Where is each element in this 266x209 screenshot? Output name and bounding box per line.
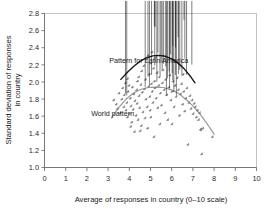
- y-tick-label: 1.8: [29, 95, 39, 104]
- world-curve-label: World pattern: [91, 109, 134, 118]
- y-tick-label: 1.2: [29, 146, 39, 155]
- y-tick-label: 2.0: [29, 78, 39, 87]
- y-axis-title-line1: Standard deviation of responses: [4, 35, 13, 144]
- x-tick-label: 4: [127, 174, 131, 183]
- x-tick-label: 10: [252, 174, 260, 183]
- x-tick-label: 9: [233, 174, 237, 183]
- x-axis-title: Average of responses in country (0–10 sc…: [75, 195, 228, 204]
- latin-america-curve-label: Pattern for Latin America: [109, 56, 188, 65]
- x-tick-label: 3: [106, 174, 110, 183]
- y-tick-label: 2.8: [29, 9, 39, 18]
- y-tick-label: 1.4: [29, 129, 39, 138]
- x-tick-label: 5: [148, 174, 152, 183]
- y-tick-label: 1.0: [29, 163, 39, 172]
- x-tick-label: 1: [64, 174, 68, 183]
- chart-background: [0, 0, 266, 209]
- scatter-chart: 1.01.21.41.61.82.02.22.42.62.8 012345678…: [0, 0, 266, 209]
- x-tick-label: 2: [85, 174, 89, 183]
- y-axis-title-line2: in country: [13, 73, 22, 106]
- y-tick-label: 2.6: [29, 26, 39, 35]
- chart-canvas: 1.01.21.41.61.82.02.22.42.62.8 012345678…: [0, 0, 266, 209]
- x-tick-label: 7: [191, 174, 195, 183]
- x-tick-label: 0: [42, 174, 46, 183]
- y-tick-label: 1.6: [29, 112, 39, 121]
- x-tick-label: 6: [170, 174, 174, 183]
- y-tick-label: 2.4: [29, 43, 39, 52]
- x-tick-label: 8: [212, 174, 216, 183]
- y-tick-label: 2.2: [29, 61, 39, 70]
